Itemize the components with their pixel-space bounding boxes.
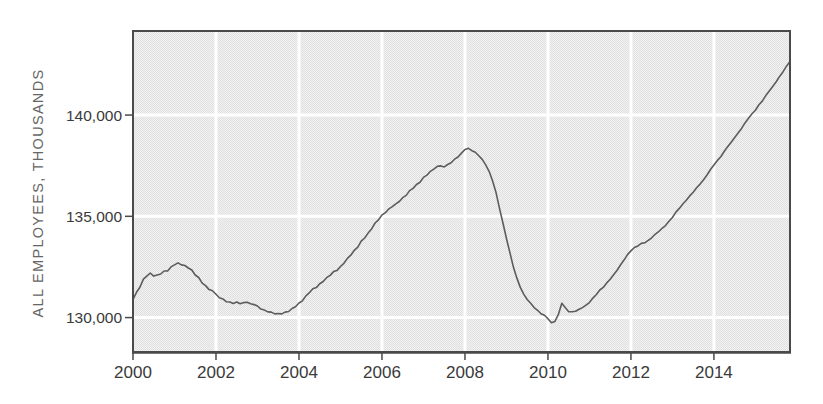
x-tick-label: 2012 — [612, 363, 650, 382]
y-axis-title: ALL EMPLOYEES, THOUSANDS — [30, 69, 46, 318]
x-tick-label: 2014 — [695, 363, 733, 382]
plot-background — [133, 31, 790, 352]
x-tick-label: 2010 — [529, 363, 567, 382]
x-tick-label: 2002 — [197, 363, 235, 382]
employment-line-chart: 20002002200420062008201020122014130,0001… — [0, 0, 823, 404]
y-tick-label: 130,000 — [66, 309, 122, 326]
y-tick-label: 135,000 — [66, 208, 122, 225]
x-tick-label: 2008 — [446, 363, 484, 382]
x-tick-label: 2000 — [114, 363, 152, 382]
employment-chart-figure: ALL EMPLOYEES, THOUSANDS 200020022004200… — [0, 0, 823, 404]
x-tick-label: 2006 — [363, 363, 401, 382]
x-tick-label: 2004 — [280, 363, 318, 382]
y-tick-label: 140,000 — [66, 107, 122, 124]
